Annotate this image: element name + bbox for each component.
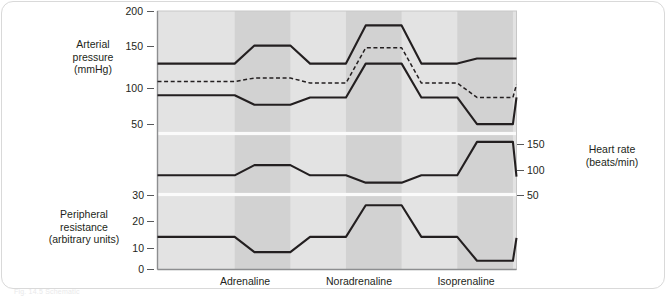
figure-container: Arterial pressure (mmHg) Peripheral resi…	[0, 0, 670, 296]
figure-caption: Fig. 14.5 Schematic	[14, 288, 80, 295]
chart-plot-area	[0, 0, 670, 296]
